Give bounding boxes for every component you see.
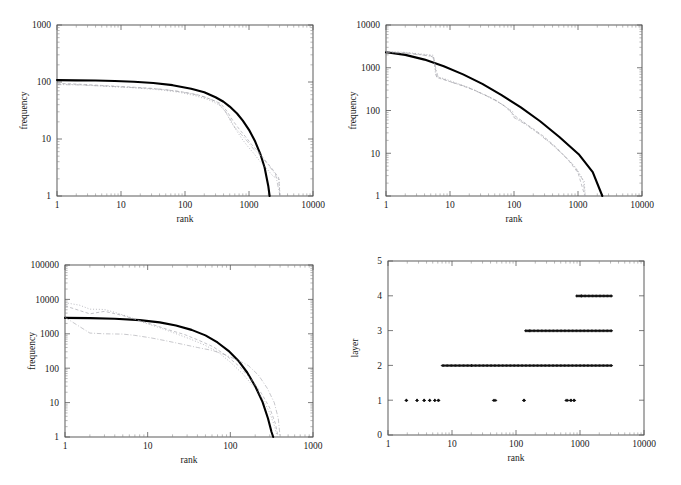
x-axis-label: rank bbox=[177, 214, 194, 224]
x-tick-label: 100 bbox=[223, 441, 238, 451]
series-sample-2 bbox=[57, 83, 280, 196]
plot-frame bbox=[386, 25, 642, 196]
x-tick-label: 10000 bbox=[630, 200, 654, 210]
y-tick-label: 100000 bbox=[31, 260, 60, 270]
y-tick-label: 10000 bbox=[35, 295, 59, 305]
x-tick-label: 1000 bbox=[240, 200, 259, 210]
chart-bottom-right: 110100100010000012345ranklayer bbox=[340, 240, 681, 485]
y-tick-label: 100 bbox=[45, 364, 60, 374]
x-axis-label: rank bbox=[508, 453, 525, 463]
x-tick-label: 1 bbox=[55, 200, 60, 210]
y-tick-label: 5 bbox=[377, 256, 382, 266]
x-tick-label: 1 bbox=[63, 441, 68, 451]
plot-frame bbox=[65, 265, 313, 437]
chart-bottom-left: 1101001000110100100010000100000rankfrequ… bbox=[0, 240, 340, 485]
series-sample-3 bbox=[65, 317, 280, 437]
series-sample-3 bbox=[386, 52, 585, 196]
panel-top-left: 1101001000100001101001000rankfrequency bbox=[0, 0, 340, 240]
data-point bbox=[611, 329, 612, 332]
y-tick-label: 10 bbox=[50, 398, 60, 408]
x-tick-label: 1 bbox=[384, 200, 389, 210]
panel-bottom-right: 110100100010000012345ranklayer bbox=[340, 240, 681, 485]
x-tick-label: 100 bbox=[509, 439, 524, 449]
chart-top-left: 1101001000100001101001000rankfrequency bbox=[0, 0, 340, 240]
data-point bbox=[424, 399, 425, 402]
x-tick-label: 100 bbox=[178, 200, 193, 210]
y-tick-label: 10000 bbox=[356, 20, 380, 30]
y-tick-label: 1 bbox=[375, 191, 380, 201]
figure-grid: 1101001000100001101001000rankfrequency 1… bbox=[0, 0, 681, 485]
data-point bbox=[417, 399, 418, 402]
y-tick-label: 100 bbox=[37, 77, 52, 87]
data-point bbox=[524, 399, 525, 402]
data-point bbox=[574, 399, 575, 402]
data-point bbox=[571, 399, 572, 402]
x-tick-label: 100 bbox=[507, 200, 522, 210]
y-axis-label: layer bbox=[350, 338, 360, 358]
y-tick-label: 10 bbox=[42, 134, 52, 144]
data-point bbox=[430, 399, 431, 402]
y-tick-label: 1 bbox=[54, 432, 59, 442]
y-tick-label: 100 bbox=[366, 106, 381, 116]
x-axis-label: rank bbox=[506, 214, 523, 224]
series-fit bbox=[65, 318, 273, 437]
plot-frame bbox=[57, 25, 313, 196]
y-tick-label: 10 bbox=[371, 149, 381, 159]
y-tick-label: 1000 bbox=[32, 20, 51, 30]
y-tick-label: 1000 bbox=[361, 63, 380, 73]
y-tick-label: 4 bbox=[377, 291, 382, 301]
series-sample-2 bbox=[386, 52, 585, 196]
x-tick-label: 10000 bbox=[301, 200, 325, 210]
x-tick-label: 1000 bbox=[571, 439, 590, 449]
data-point bbox=[439, 399, 440, 402]
data-point bbox=[435, 399, 436, 402]
panel-bottom-left: 1101001000110100100010000100000rankfrequ… bbox=[0, 240, 340, 485]
x-tick-label: 10000 bbox=[632, 439, 656, 449]
y-tick-label: 1000 bbox=[40, 329, 59, 339]
x-tick-label: 1000 bbox=[304, 441, 323, 451]
y-axis-label: frequency bbox=[348, 91, 358, 129]
data-point bbox=[567, 399, 568, 402]
y-tick-label: 1 bbox=[377, 396, 382, 406]
x-tick-label: 10 bbox=[447, 439, 457, 449]
series-sample-1 bbox=[386, 52, 585, 197]
panel-top-right: 110100100010000110100100010000rankfreque… bbox=[340, 0, 681, 240]
y-tick-label: 0 bbox=[377, 430, 382, 440]
x-axis-label: rank bbox=[181, 455, 198, 465]
data-point bbox=[406, 399, 407, 402]
data-point bbox=[495, 399, 496, 402]
x-tick-label: 10 bbox=[143, 441, 153, 451]
series-sample-3 bbox=[57, 85, 280, 196]
y-tick-label: 2 bbox=[377, 361, 382, 371]
x-tick-label: 1000 bbox=[569, 200, 588, 210]
x-tick-label: 10 bbox=[445, 200, 455, 210]
y-axis-label: frequency bbox=[19, 91, 29, 129]
x-tick-label: 10 bbox=[116, 200, 126, 210]
y-tick-label: 1 bbox=[46, 191, 51, 201]
data-point bbox=[611, 364, 612, 367]
data-point bbox=[611, 295, 612, 298]
y-axis-label: frequency bbox=[27, 332, 37, 370]
plot-frame bbox=[388, 261, 644, 435]
series-fit bbox=[57, 80, 270, 196]
y-tick-label: 3 bbox=[377, 326, 382, 336]
chart-top-right: 110100100010000110100100010000rankfreque… bbox=[340, 0, 681, 240]
series-fit bbox=[386, 52, 602, 196]
x-tick-label: 1 bbox=[386, 439, 391, 449]
